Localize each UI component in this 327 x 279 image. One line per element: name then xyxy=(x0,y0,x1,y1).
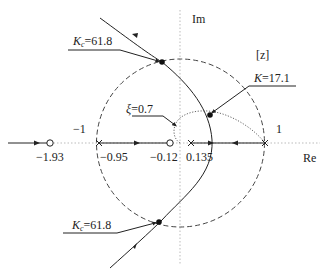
damping-curve xyxy=(174,111,265,143)
k-point xyxy=(207,112,213,118)
point-label-0-135: 0.135 xyxy=(186,150,213,164)
k-label: K=17.1 xyxy=(253,71,290,85)
imag-axis-label: Im xyxy=(192,12,206,26)
xi-label: ξ=0.7 xyxy=(126,102,153,116)
kc-bottom-label: Kc=61.8 xyxy=(71,218,111,233)
unit-left-label: −1 xyxy=(73,122,86,136)
kc-top-label: Kc=61.8 xyxy=(72,34,112,49)
arrow-upper xyxy=(132,33,138,38)
plane-label: [z] xyxy=(256,48,269,62)
zero-marker-neg1-93 xyxy=(47,140,53,146)
point-label-neg1-93: −1.93 xyxy=(36,150,64,164)
point-label-neg0-95: −0.95 xyxy=(100,150,128,164)
root-locus-diagram: Im Re [z] −1 1 −1.93 −0.95 −0.12 0.135 K… xyxy=(0,0,327,279)
unit-right-label: 1 xyxy=(276,122,282,136)
real-axis-label: Re xyxy=(303,151,316,165)
kc-point-top xyxy=(159,59,165,65)
zero-marker-neg0-12 xyxy=(167,140,173,146)
kc-point-bottom xyxy=(156,219,162,225)
point-label-neg0-12: −0.12 xyxy=(150,150,178,164)
